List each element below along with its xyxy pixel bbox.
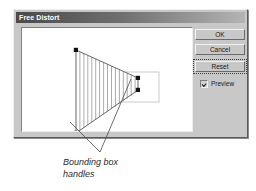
top-right-handle[interactable] bbox=[136, 76, 140, 80]
top-left-handle[interactable] bbox=[74, 48, 78, 52]
cancel-button[interactable]: Cancel bbox=[195, 44, 245, 55]
checkbox-checked-icon[interactable] bbox=[200, 80, 208, 88]
distort-quad-outline bbox=[76, 50, 138, 131]
preview-checkbox-row[interactable]: Preview bbox=[200, 79, 234, 89]
reset-button-focus-ring: Reset bbox=[193, 59, 247, 74]
caption-line-1: Bounding box bbox=[63, 156, 183, 168]
dialog-title: Free Distort bbox=[19, 13, 60, 22]
free-distort-dialog: Free Distort bbox=[13, 9, 248, 138]
screenshot-root: Free Distort bbox=[0, 0, 256, 191]
caption-line-2: handles bbox=[63, 168, 183, 180]
bottom-right-handle[interactable] bbox=[136, 88, 140, 92]
reset-button[interactable]: Reset bbox=[195, 61, 245, 72]
preview-checkbox-label: Preview bbox=[211, 80, 234, 89]
dialog-titlebar[interactable]: Free Distort bbox=[16, 12, 245, 23]
ok-button[interactable]: OK bbox=[195, 29, 245, 40]
distort-preview-canvas[interactable] bbox=[21, 27, 193, 132]
caption-text: Bounding box handles bbox=[63, 156, 183, 180]
distort-mesh-graphic bbox=[22, 28, 192, 131]
